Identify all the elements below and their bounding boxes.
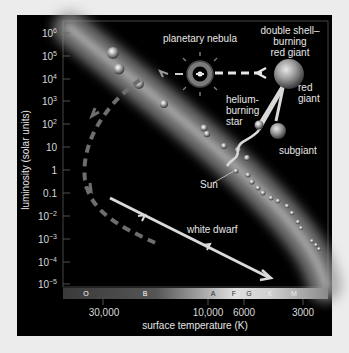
spectral-class-o: O [83, 290, 89, 297]
sun-label: Sun [200, 179, 218, 190]
y-axis: 106 105 104 103 102 10 1 0.1 10−2 10−3 1… [38, 27, 70, 290]
planetary-nebula-label: planetary nebula [163, 33, 237, 44]
y-tick-label: 0.1 [43, 188, 57, 199]
y-tick-label: 10−2 [38, 210, 57, 222]
subgiant-star [270, 123, 286, 139]
red-giant-label-2: giant [298, 93, 320, 104]
helium-label-1: helium- [226, 94, 259, 105]
subgiant-label: subgiant [279, 145, 317, 156]
y-tick-label: 102 [42, 118, 57, 130]
y-tick-label: 10−4 [38, 256, 57, 268]
x-axis: 30,000 10,000 6000 3000 [89, 299, 315, 318]
double-shell-label-2: burning [273, 36, 306, 47]
y-axis-label: luminosity (solar units) [20, 110, 31, 209]
arrow-icon [160, 71, 168, 77]
y-tick-label: 10−5 [38, 278, 57, 290]
spectral-class-bar: O B A F G K M [63, 288, 328, 299]
double-shell-label-1: double shell– [261, 25, 320, 36]
x-tick-label: 6000 [233, 307, 256, 318]
hr-diagram: planetary nebula double shell– burning r… [0, 0, 349, 353]
x-tick-label: 30,000 [89, 307, 120, 318]
double-shell-label-3: red giant [271, 47, 310, 58]
white-dwarf-track [110, 198, 271, 280]
helium-label-3: star [226, 116, 243, 127]
x-axis-label: surface temperature (K) [142, 320, 248, 331]
arrow-icon [138, 215, 145, 221]
y-tick-label: 103 [42, 95, 57, 107]
spectral-class-g: G [246, 290, 251, 297]
y-tick-label: 106 [42, 27, 57, 39]
spectral-class-m: M [291, 290, 297, 297]
y-tick-label: 104 [42, 73, 57, 85]
red-giant-label-1: red [298, 82, 312, 93]
x-tick-label: 10,000 [193, 307, 224, 318]
x-tick-label: 3000 [292, 307, 315, 318]
sun-star [234, 169, 239, 174]
arrow-icon [92, 108, 99, 116]
y-tick-label: 10 [46, 142, 58, 153]
y-tick-label: 105 [42, 50, 57, 62]
helium-label-2: burning [226, 105, 259, 116]
white-dwarf-label: white dwarf [186, 224, 238, 235]
helium-burning-star [255, 121, 264, 130]
y-tick-label: 10−3 [38, 233, 57, 245]
spectral-class-f: F [232, 290, 236, 297]
spectral-class-a: A [211, 290, 216, 297]
spectral-class-k: K [268, 290, 273, 297]
y-tick-label: 1 [51, 165, 57, 176]
planetary-nebula [183, 52, 217, 96]
spectral-class-b: B [143, 290, 148, 297]
